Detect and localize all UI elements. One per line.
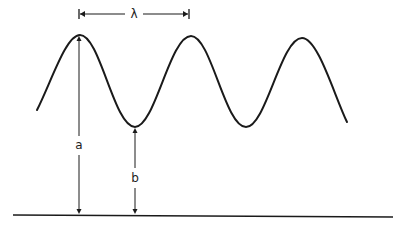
label-a: a xyxy=(75,138,82,152)
arrow-b-down-icon xyxy=(133,209,138,214)
sine-wave xyxy=(37,35,347,127)
trough-b-dimension: b xyxy=(131,128,139,214)
arrow-b-up-icon xyxy=(133,128,138,133)
wave-diagram: λ a b xyxy=(0,0,405,230)
wavelength-right-arrow-icon xyxy=(183,11,188,17)
arrow-a-down-icon xyxy=(77,209,82,214)
wavelength-label: λ xyxy=(130,7,137,21)
arrow-a-up-icon xyxy=(77,36,82,41)
amplitude-a-dimension: a xyxy=(75,36,82,214)
wavelength-dimension: λ xyxy=(79,7,189,21)
baseline xyxy=(13,215,393,217)
wavelength-left-arrow-icon xyxy=(80,11,85,17)
label-b: b xyxy=(131,171,139,185)
